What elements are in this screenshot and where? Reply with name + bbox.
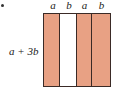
area-rectangle: [43, 13, 111, 87]
strip-b-1: [60, 14, 77, 86]
strip-b-2: [92, 14, 110, 86]
strip-a-1: [44, 14, 60, 86]
bullet-marker: [1, 4, 4, 7]
top-label-b-1: b: [60, 0, 78, 11]
strip-a-2: [77, 14, 92, 86]
top-label-a-2: a: [77, 0, 92, 11]
top-label-a-1: a: [45, 0, 61, 11]
top-label-b-2: b: [92, 0, 111, 11]
height-label: a + 3b: [9, 45, 38, 57]
